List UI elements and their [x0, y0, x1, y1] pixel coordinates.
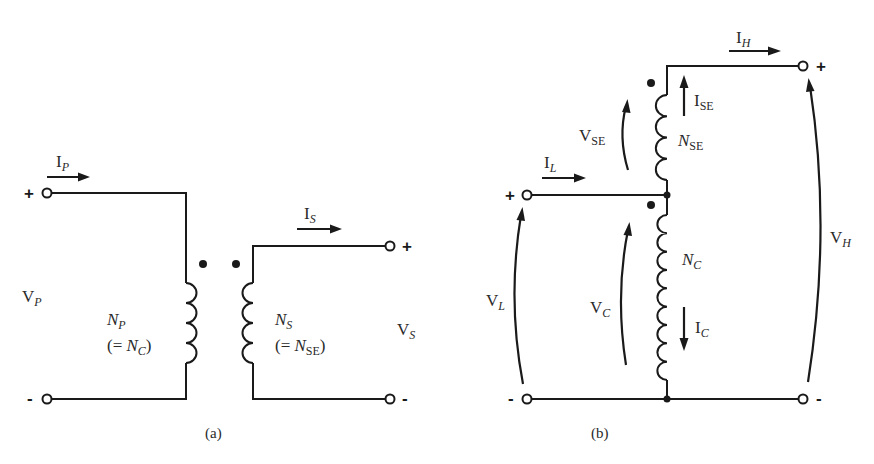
- panel-b-caption: (b): [591, 425, 609, 442]
- low-negative-terminal: [523, 395, 532, 404]
- transformer-diagram: + - + - IP IS VP VS NP (= NC) NS (= NSE)…: [0, 0, 874, 464]
- panel-b: + - + - IH IL ISE IC VSE: [486, 28, 852, 442]
- low-current-label: IL: [544, 153, 557, 175]
- high-minus-sign: -: [816, 389, 822, 408]
- secondary-polarity-dot: [232, 260, 240, 268]
- primary-coil: [186, 283, 197, 363]
- primary-negative-terminal: [43, 395, 52, 404]
- secondary-positive-terminal: [386, 242, 395, 251]
- common-current-label: IC: [695, 318, 710, 340]
- tap-junction: [664, 192, 671, 199]
- secondary-voltage-label: VS: [397, 320, 415, 342]
- secondary-current-label: IS: [304, 204, 316, 226]
- series-coil: [656, 95, 667, 180]
- primary-current-label: IP: [56, 152, 70, 174]
- low-positive-terminal: [523, 191, 532, 200]
- secondary-turns-equivalence: (= NSE): [275, 336, 326, 358]
- high-current-arrow: [729, 47, 781, 56]
- secondary-plus-sign: +: [402, 237, 412, 256]
- primary-turns-equivalence: (= NC): [107, 336, 152, 358]
- primary-turns-label: NP: [106, 310, 126, 332]
- series-voltage-arrow: [622, 99, 631, 170]
- secondary-bottom-wire: [253, 363, 386, 399]
- series-current-arrow: [680, 75, 689, 116]
- panel-a: + - + - IP IS VP VS NP (= NC) NS (= NSE)…: [22, 152, 415, 442]
- secondary-negative-terminal: [386, 395, 395, 404]
- high-plus-sign: +: [816, 57, 826, 76]
- high-side-top-wire: [667, 66, 799, 95]
- primary-minus-sign: -: [27, 389, 33, 408]
- primary-top-wire: [51, 193, 186, 283]
- common-turns-label: NC: [681, 250, 702, 272]
- high-positive-terminal: [799, 62, 808, 71]
- primary-polarity-dot: [199, 260, 207, 268]
- low-plus-sign: +: [505, 186, 515, 205]
- bottom-junction: [664, 396, 671, 403]
- panel-a-caption: (a): [205, 425, 222, 442]
- secondary-turns-label: NS: [274, 310, 292, 332]
- secondary-top-wire: [253, 246, 386, 283]
- series-voltage-label: VSE: [579, 126, 605, 148]
- series-turns-label: NSE: [677, 131, 703, 153]
- series-current-label: ISE: [694, 91, 714, 113]
- low-current-arrow: [542, 174, 586, 183]
- primary-positive-terminal: [43, 189, 52, 198]
- high-negative-terminal: [799, 395, 808, 404]
- primary-voltage-label: VP: [22, 287, 42, 309]
- high-voltage-arrow: [806, 78, 821, 382]
- common-coil: [657, 215, 667, 380]
- secondary-minus-sign: -: [402, 389, 408, 408]
- common-polarity-dot: [647, 201, 655, 209]
- high-voltage-label: VH: [830, 228, 852, 250]
- low-voltage-label: VL: [486, 291, 505, 313]
- high-current-label: IH: [736, 28, 752, 50]
- common-current-arrow: [680, 307, 689, 351]
- primary-plus-sign: +: [24, 184, 34, 203]
- secondary-current-arrow: [297, 225, 342, 234]
- series-polarity-dot: [647, 79, 655, 87]
- low-voltage-arrow: [514, 207, 525, 384]
- common-voltage-arrow: [621, 222, 632, 365]
- secondary-coil: [243, 283, 254, 363]
- primary-bottom-wire: [51, 363, 186, 399]
- low-minus-sign: -: [508, 389, 514, 408]
- common-voltage-label: VC: [590, 298, 611, 320]
